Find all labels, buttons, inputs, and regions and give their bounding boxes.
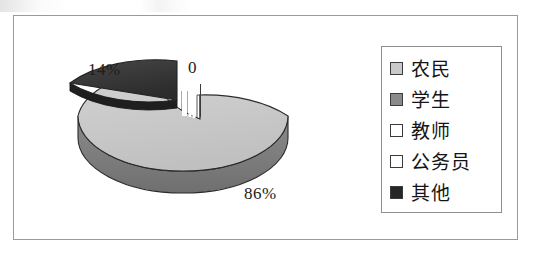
zero-label-leader-line [200,84,201,117]
pie-data-label-0: 0 [188,58,197,78]
legend-swatch-icon-xuesheng [390,93,403,106]
pie-data-label-86: 86% [244,184,277,204]
legend-label-xuesheng: 学生 [411,90,451,110]
scan-artifact [0,0,538,12]
legend-label-jiaoshi: 教师 [411,121,451,141]
pie-data-label-14: 14% [88,60,121,80]
chart-frame: 14% 0 86% 农民 学生 教师 公务员 其他 [13,15,518,240]
legend-item-xuesheng: 学生 [390,84,501,115]
legend-label-qita: 其他 [411,183,451,203]
pie-explode-gap [182,61,187,116]
pie-chart: 14% 0 86% [14,16,384,241]
legend: 农民 学生 教师 公务员 其他 [381,46,502,213]
legend-item-nongmin: 农民 [390,53,501,84]
legend-swatch-icon-jiaoshi [390,124,403,137]
pie-graphic [14,16,384,241]
legend-swatch-icon-gongwuyuan [390,155,403,168]
legend-label-nongmin: 农民 [411,59,451,79]
legend-item-jiaoshi: 教师 [390,115,501,146]
legend-swatch-icon-qita [390,186,403,199]
legend-swatch-icon-nongmin [390,62,403,75]
legend-item-gongwuyuan: 公务员 [390,146,501,177]
legend-item-qita: 其他 [390,177,501,208]
legend-label-gongwuyuan: 公务员 [411,152,471,172]
